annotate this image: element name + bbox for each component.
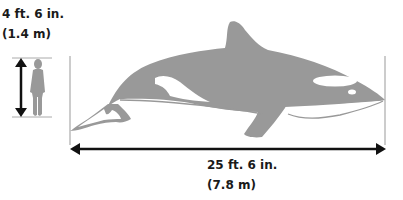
human-silhouette-icon	[30, 59, 45, 116]
whale-length-arrow-icon	[70, 143, 386, 155]
human-height-arrow-icon	[15, 58, 27, 117]
whale-length-imperial-label: 25 ft. 6 in.	[207, 158, 277, 173]
human-height-metric-label: (1.4 m)	[2, 27, 51, 42]
size-comparison-diagram	[0, 0, 403, 200]
human-height-imperial-label: 4 ft. 6 in.	[2, 7, 64, 22]
orca-silhouette-icon	[70, 21, 385, 137]
whale-length-metric-label: (7.8 m)	[207, 178, 256, 193]
